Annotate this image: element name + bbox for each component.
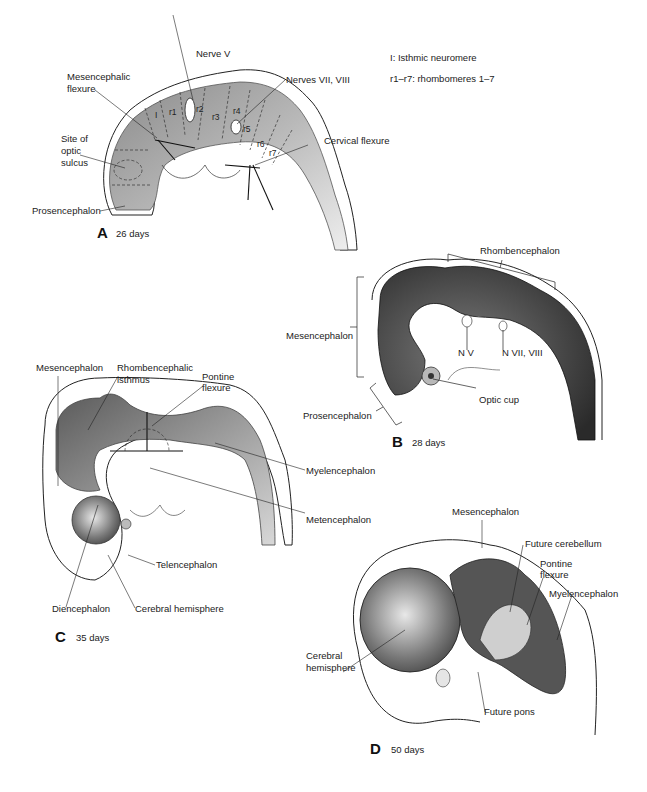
label-mesencephalic-flexure-line1: Mesencephalic [67,71,130,82]
panel-a-age: 26 days [116,228,149,239]
panel-d-age: 50 days [391,744,424,755]
label-rhombencephalic-isthmus-line2: isthmus [117,374,150,385]
segment-label-r6: r6 [257,139,265,150]
panel-d-illustration [343,520,596,735]
label-pontine-flexure-d-line1: Pontine [540,558,572,569]
label-myelencephalon-c: Myelencephalon [306,465,375,476]
label-n-v: N V [458,347,474,358]
segment-label-r7: r7 [269,148,277,159]
label-site-of-optic-sulcus-line3: sulcus [61,157,88,168]
label-cerebral-hemisphere-c: Cerebral hemisphere [135,603,224,614]
label-optic-cup: Optic cup [479,394,519,405]
label-cervical-flexure: Cervical flexure [324,135,389,146]
legend-rhombomeres: r1–r7: rhombomeres 1–7 [390,73,495,84]
label-nerve-v: Nerve V [196,48,230,59]
label-future-pons: Future pons [484,706,535,717]
label-mesencephalon-b: Mesencephalon [286,330,353,341]
segment-label-r2: r2 [196,104,204,115]
label-pontine-flexure-c-line2: flexure [202,382,231,393]
panel-a-letter: A [97,224,108,241]
label-future-cerebellum: Future cerebellum [525,538,602,549]
label-myelencephalon-d: Myelencephalon [549,588,618,599]
label-pontine-flexure-c-line1: Pontine [202,371,234,382]
label-n-vii-viii: N VII, VIII [502,347,543,358]
label-cerebral-hemisphere-d-line2: hemisphere [306,662,356,673]
label-telencephalon: Telencephalon [156,559,217,570]
label-mesencephalic-flexure-line2: flexure [67,83,96,94]
label-diencephalon: Diencephalon [52,603,110,614]
diagram-artwork [0,0,647,792]
label-pontine-flexure-d-line2: flexure [540,569,569,580]
label-metencephalon: Metencephalon [306,514,371,525]
panel-c-illustration [43,376,305,608]
label-rhombencephalon: Rhombencephalon [480,245,560,256]
label-nerves-vii-viii: Nerves VII, VIII [286,74,350,85]
segment-label-r4: r4 [233,106,241,117]
segment-label-isthmic: I [155,110,157,121]
label-mesencephalon-c: Mesencephalon [36,362,103,373]
label-cerebral-hemisphere-d-line1: Cerebral [306,650,342,661]
label-site-of-optic-sulcus-line1: Site of [61,133,88,144]
segment-label-r3: r3 [212,112,220,123]
panel-b-illustration [350,254,602,440]
panel-c-letter: C [55,628,66,645]
label-mesencephalon-d: Mesencephalon [452,506,519,517]
label-prosencephalon-b: Prosencephalon [303,410,372,421]
label-prosencephalon-a: Prosencephalon [32,205,101,216]
segment-label-r1: r1 [169,107,177,118]
panel-c-age: 35 days [76,632,109,643]
segment-label-r5: r5 [243,124,251,135]
label-rhombencephalic-isthmus-line1: Rhombencephalic [117,362,193,373]
panel-b-age: 28 days [412,437,445,448]
panel-d-letter: D [370,740,381,757]
legend-isthmic-neuromere: I: Isthmic neuromere [390,52,477,63]
panel-b-letter: B [392,433,403,450]
label-site-of-optic-sulcus-line2: optic [61,145,81,156]
